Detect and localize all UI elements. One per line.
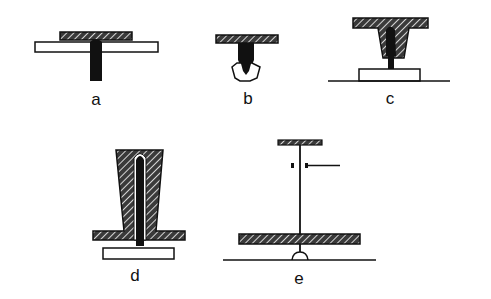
black-inner-rod	[136, 156, 144, 246]
large-hatched-plate	[239, 234, 360, 244]
panel-label-e: e	[294, 269, 303, 288]
white-base-plate	[103, 248, 174, 259]
small-hatched-top-plate	[278, 140, 322, 145]
panel-label-c: c	[386, 89, 395, 108]
pointer-dot-left	[291, 163, 294, 168]
panel-b: b	[216, 35, 278, 108]
panel-label-d: d	[130, 266, 139, 285]
black-stem	[388, 56, 394, 69]
panel-d: d	[93, 150, 185, 285]
panel-e: e	[223, 140, 376, 288]
dome	[292, 252, 308, 260]
panel-a: a	[35, 32, 158, 109]
panel-label-b: b	[243, 89, 252, 108]
hatched-cap-plate	[60, 32, 132, 40]
white-base-block	[359, 69, 420, 81]
panel-c: c	[328, 18, 450, 108]
black-core	[386, 27, 396, 57]
diagram-canvas: a b c d e	[0, 0, 491, 299]
panel-label-a: a	[91, 90, 101, 109]
black-stem	[90, 39, 102, 81]
hatched-cap-plate	[216, 35, 278, 43]
